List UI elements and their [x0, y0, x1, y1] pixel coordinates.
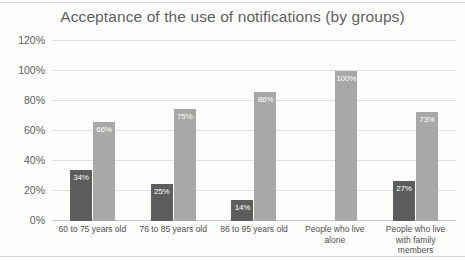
- bars-layer: 34%66%25%75%14%86%100%27%73%: [52, 41, 456, 221]
- x-axis-category-label: 86 to 95 years old: [214, 224, 295, 256]
- y-axis-tick-label: 40%: [24, 154, 45, 166]
- x-axis-category-label: People who live with family members: [375, 224, 456, 256]
- chart-container: Acceptance of the use of notifications (…: [0, 0, 465, 260]
- bar[interactable]: 34%: [70, 170, 92, 221]
- bar[interactable]: 27%: [393, 181, 415, 222]
- bar-value-label: 14%: [231, 203, 253, 212]
- bar-group: 100%: [294, 41, 375, 221]
- bar-group: 34%66%: [52, 41, 133, 221]
- bar-value-label: 27%: [393, 184, 415, 193]
- bar-group: 25%75%: [133, 41, 214, 221]
- y-axis-tick-label: 20%: [24, 184, 45, 196]
- bar[interactable]: 100%: [335, 71, 357, 221]
- bar-group: 14%86%: [214, 41, 295, 221]
- x-axis-category-label: 60 to 75 years old: [52, 224, 133, 256]
- y-axis-tick-label: 120%: [18, 34, 45, 46]
- bar[interactable]: 66%: [93, 122, 115, 221]
- bar[interactable]: 25%: [151, 184, 173, 222]
- y-axis-tick-label: 80%: [24, 94, 45, 106]
- bar[interactable]: 75%: [174, 109, 196, 222]
- y-axis-tick-label: 60%: [24, 124, 45, 136]
- x-axis-category-label: People who live alone: [294, 224, 375, 256]
- bar-value-label: 25%: [151, 187, 173, 196]
- x-axis-labels: 60 to 75 years old76 to 85 years old86 t…: [52, 224, 456, 256]
- bar-group: 27%73%: [375, 41, 456, 221]
- bar[interactable]: 73%: [416, 112, 438, 222]
- y-axis-tick-label: 100%: [18, 64, 45, 76]
- bar-value-label: 73%: [416, 115, 438, 124]
- y-axis-tick-label: 0%: [30, 214, 45, 226]
- bar[interactable]: 14%: [231, 200, 253, 221]
- chart-title: Acceptance of the use of notifications (…: [0, 8, 465, 26]
- plot-area: 120%100%80%60%40%20%0% 34%66%25%75%14%86…: [52, 41, 456, 221]
- bar-value-label: 75%: [174, 112, 196, 121]
- bar[interactable]: 86%: [254, 92, 276, 221]
- bar-value-label: 34%: [70, 173, 92, 182]
- bar-value-label: 66%: [93, 125, 115, 134]
- x-axis-category-label: 76 to 85 years old: [133, 224, 214, 256]
- bar-value-label: 100%: [335, 74, 357, 83]
- bar-value-label: 86%: [254, 95, 276, 104]
